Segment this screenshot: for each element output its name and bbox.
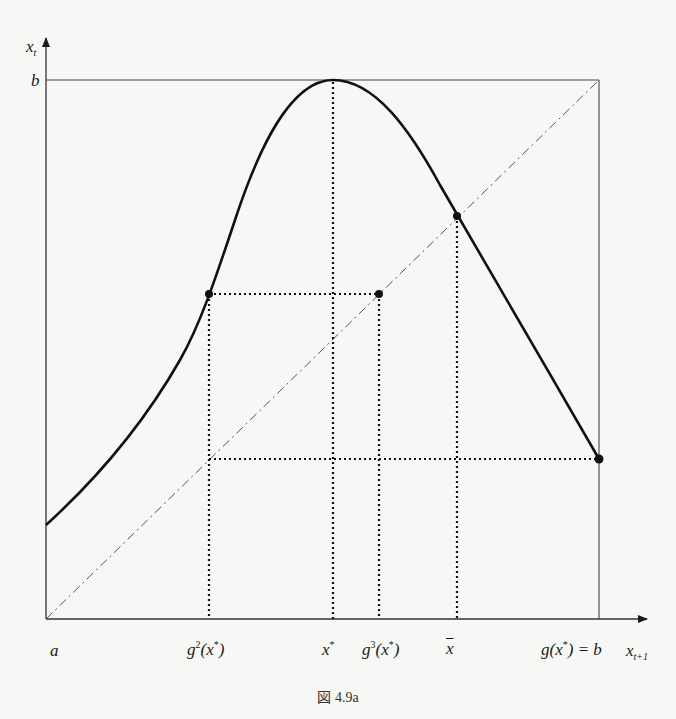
g3-arg: (x	[376, 640, 389, 659]
x-tick-xstar: x*	[322, 640, 335, 658]
y-axis-label: xt	[26, 38, 36, 58]
x-tick-a: a	[50, 642, 59, 659]
x-tick-g3: g3(x*)	[362, 640, 399, 658]
point-gx	[595, 455, 604, 464]
g3-base: g	[362, 640, 371, 659]
x-tick-g2: g2(x*)	[187, 640, 224, 658]
x-tick-a-text: a	[50, 641, 59, 660]
x-tick-xbar: x	[446, 640, 454, 657]
gx-base: g(x	[541, 640, 563, 659]
point-g3	[375, 290, 383, 298]
y-tick-b: b	[31, 72, 40, 89]
xstar-sup: *	[330, 639, 335, 650]
g3-close: )	[394, 640, 400, 659]
xbar-text: x	[446, 639, 454, 658]
gx-rest: ) = b	[568, 640, 602, 659]
x-tick-gx-equals-b: g(x*) = b	[541, 640, 602, 658]
cobweb-diagram	[0, 0, 676, 719]
guide-lines	[209, 82, 599, 619]
g2-close: )	[219, 640, 225, 659]
point-xbar	[453, 212, 461, 220]
x-axis-label: xt+1	[626, 642, 648, 662]
point-g2	[205, 290, 213, 298]
y-axis-label-sub: t	[34, 47, 37, 58]
x-axis-label-text: x	[626, 641, 634, 660]
x-axis-label-sub: t+1	[634, 651, 649, 662]
y-tick-b-text: b	[31, 71, 40, 90]
diagonal-45-line	[46, 80, 599, 619]
map-curve	[46, 80, 599, 525]
y-axis-label-text: x	[26, 37, 34, 56]
xstar-base: x	[322, 640, 330, 659]
g2-base: g	[187, 640, 196, 659]
g2-arg: (x	[201, 640, 214, 659]
figure-caption: 図 4.9a	[0, 686, 676, 706]
